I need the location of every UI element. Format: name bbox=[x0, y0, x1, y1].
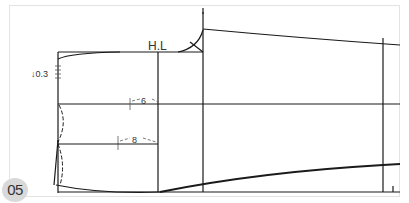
step-number-badge: 05 bbox=[2, 178, 28, 202]
dashed-curve-upper bbox=[58, 105, 63, 142]
pattern-drafting-diagram bbox=[0, 0, 409, 203]
adjusted-waist-line bbox=[58, 52, 120, 59]
measure-8-dash bbox=[120, 138, 156, 142]
measure-lower-label: 8 bbox=[132, 135, 137, 145]
lower-seam-curve bbox=[160, 164, 400, 192]
lower-hem-curve bbox=[56, 185, 160, 192]
offset-label: ↓0.3 bbox=[31, 69, 48, 79]
upper-seam-curve bbox=[203, 29, 400, 45]
hip-line-label: H.L bbox=[148, 41, 167, 51]
dashed-curve-lower bbox=[58, 144, 63, 185]
measure-upper-label: 6 bbox=[141, 96, 146, 106]
